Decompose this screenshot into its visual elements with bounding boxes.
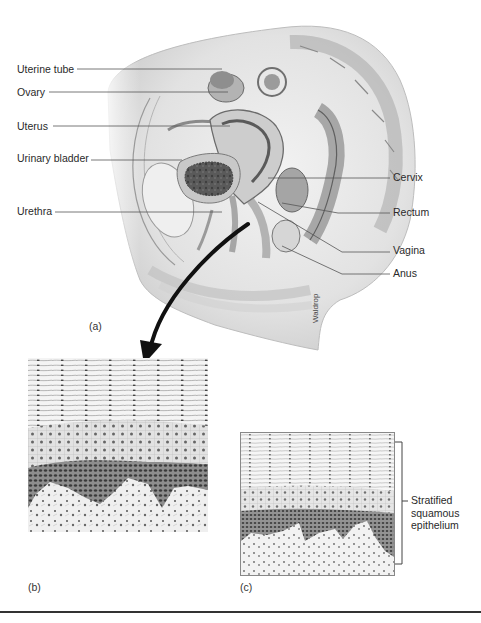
label-cervix: Cervix xyxy=(393,171,423,183)
label-vagina: Vagina xyxy=(393,244,425,256)
label-urethra: Urethra xyxy=(17,205,52,217)
panel-a-tag: (a) xyxy=(89,320,102,332)
label-uterus: Uterus xyxy=(17,120,48,132)
bracket-label-line-2: squamous xyxy=(411,507,459,520)
micrograph-c xyxy=(240,432,395,576)
micrograph-b xyxy=(28,358,208,532)
urinary-bladder xyxy=(177,153,240,203)
panel-b-tag: (b) xyxy=(28,581,41,593)
panel-c-tag: (c) xyxy=(240,581,252,593)
bracket-label-line-3: epithelium xyxy=(411,519,459,532)
label-urinary-bladder: Urinary bladder xyxy=(17,152,89,164)
label-uterine-tube: Uterine tube xyxy=(17,63,74,75)
label-rectum: Rectum xyxy=(393,206,429,218)
label-anus: Anus xyxy=(393,267,417,279)
artist-signature: Waldrop xyxy=(311,294,320,324)
page-divider xyxy=(0,611,481,613)
label-stratified-squamous-epithelium: Stratified squamous epithelium xyxy=(411,494,459,532)
epithelium-bracket xyxy=(395,442,408,564)
bracket-label-line-1: Stratified xyxy=(411,494,459,507)
label-ovary: Ovary xyxy=(17,86,45,98)
